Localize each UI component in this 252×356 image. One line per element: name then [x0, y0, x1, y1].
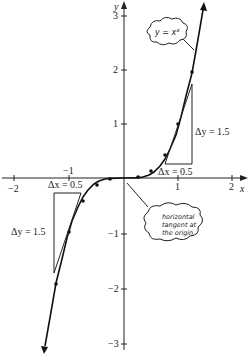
tangent-callout: horizontal tangent at the origin: [127, 183, 203, 241]
y-axis-arrow-icon: [121, 1, 127, 9]
x-tick-label: 2: [229, 181, 234, 192]
delta-x-label-right: Δx = 0.5: [158, 166, 193, 177]
tangent-callout-line: horizontal: [162, 213, 195, 221]
y-tick-label: 1: [113, 118, 118, 129]
function-callout-text: y = x³: [154, 28, 179, 37]
function-callout: y = x³: [147, 17, 194, 50]
tangent-triangle-right: [165, 84, 192, 164]
x-tick-label: −1: [63, 165, 74, 176]
axis-ticks: [14, 16, 232, 344]
x-tick-label: −2: [8, 183, 19, 194]
x-axis-arrow-icon: [240, 175, 248, 181]
tangent-callout-line: the origin: [162, 229, 193, 237]
x-tick-label: 1: [175, 181, 180, 192]
curve-arrow-up-icon: [200, 2, 207, 11]
delta-x-label-left: Δx = 0.5: [48, 179, 83, 190]
x-axis-label: x: [239, 183, 245, 194]
cubic-function-plot: −2 −1 1 2 x 3 2 1 −1 −2 −3 y Δx = 0.5 Δy…: [0, 0, 252, 356]
tangent-triangle-left: [54, 193, 81, 273]
y-tick-label: −3: [108, 338, 119, 349]
y-axis-label: y: [113, 1, 119, 12]
curve-arrow-down-icon: [41, 346, 48, 354]
tangent-callout-line: tangent at: [162, 221, 196, 229]
y-tick-label: 2: [113, 64, 118, 75]
delta-y-label-left: Δy = 1.5: [11, 226, 46, 237]
axes: [2, 4, 244, 350]
delta-y-label-right: Δy = 1.5: [195, 126, 230, 137]
y-tick-label: −2: [108, 283, 119, 294]
y-tick-label: −1: [108, 228, 119, 239]
